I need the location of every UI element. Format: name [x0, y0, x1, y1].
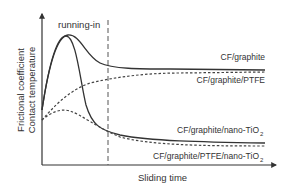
tribology-diagram: running-in CF/graphite CF/graphite/PTFE … [0, 0, 289, 193]
subscript-2a: 2 [260, 131, 264, 137]
subscript-2b: 2 [260, 157, 264, 163]
curve-label-cf-graphite-nano-tio2: CF/graphite/nano-TiO [177, 125, 259, 135]
curve-label-cf-graphite-ptfe-nano-tio2: CF/graphite/PTFE/nano-TiO [153, 151, 259, 161]
x-axis-label: Sliding time [138, 172, 187, 183]
y-axis-label-line1: Frictional coefficient [15, 48, 26, 132]
y-axis-label-line2: Contact temperature [26, 47, 37, 134]
phase-label-running-in: running-in [58, 19, 100, 30]
curve-label-cf-graphite-ptfe: CF/graphite/PTFE [197, 75, 266, 85]
curve-label-text: CF/graphite/nano-TiO [177, 125, 259, 135]
curve-label-text: CF/graphite/PTFE/nano-TiO [153, 151, 259, 161]
curve-label-cf-graphite: CF/graphite [221, 52, 266, 62]
